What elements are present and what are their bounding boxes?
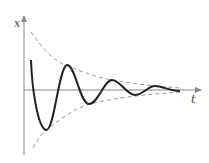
damped-oscillation-diagram: x t <box>0 0 209 163</box>
x-axis-label: t <box>191 93 196 106</box>
upper-envelope <box>31 32 182 88</box>
diagram-canvas: x t <box>0 0 209 163</box>
oscillation-curve <box>31 60 180 130</box>
y-axis-label: x <box>14 17 21 30</box>
